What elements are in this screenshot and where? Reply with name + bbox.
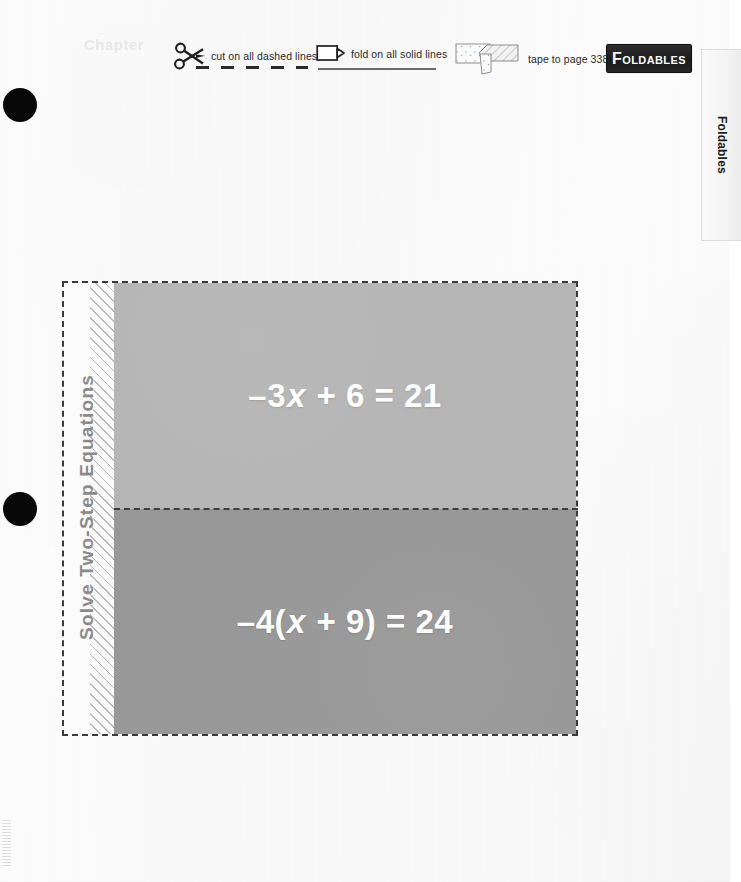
foldables-logo-rest: OLDABLES: [622, 54, 686, 66]
equation-top-pre: –3: [248, 377, 286, 414]
fold-solid-rule: [318, 68, 436, 70]
foldables-logo-badge: FOLDABLES: [606, 44, 692, 73]
side-tab-label: Foldables: [715, 116, 729, 174]
bottom-scan-artifact: [2, 818, 11, 866]
panel-divider-dashed-line: [114, 508, 578, 510]
fold-instruction-label: fold on all solid lines: [351, 48, 447, 60]
equation-top-post: + 6 = 21: [307, 377, 442, 414]
foldables-logo-text: FOLDABLES: [612, 50, 686, 68]
equation-bottom-post: + 9) = 24: [307, 603, 453, 640]
punch-hole-mark: [3, 88, 37, 122]
fold-instruction: fold on all solid lines: [316, 43, 447, 65]
tape-instruction: tape to page 338: [455, 40, 608, 78]
fold-paper-icon: [316, 43, 346, 65]
side-tab-foldables[interactable]: Foldables: [701, 49, 741, 241]
tape-strip-icon: [455, 40, 521, 78]
equation-bottom-variable: x: [286, 603, 307, 640]
foldable-panel-bottom[interactable]: –4(x + 9) = 24: [114, 509, 576, 734]
instructions-header: Chapter cut on all dashed lines fol: [0, 0, 730, 86]
foldables-logo-lead: F: [612, 50, 622, 67]
tape-instruction-label: tape to page 338: [528, 53, 608, 65]
punch-hole-mark: [3, 492, 37, 526]
cut-dashed-rule: [196, 66, 308, 69]
foldable-worksheet: Solve Two-Step Equations –3x + 6 = 21 –4…: [62, 281, 578, 736]
equation-top-variable: x: [286, 377, 307, 414]
cut-instruction-label: cut on all dashed lines: [211, 50, 317, 62]
spine-hatch-pattern: [90, 283, 114, 734]
foldable-spine: [64, 283, 114, 734]
equation-bottom: –4(x + 9) = 24: [237, 603, 453, 641]
equation-top: –3x + 6 = 21: [248, 377, 441, 415]
equation-bottom-pre: –4(: [237, 603, 286, 640]
foldable-panel-top[interactable]: –3x + 6 = 21: [114, 283, 576, 509]
faint-scan-artifact-text: Chapter: [84, 36, 176, 66]
